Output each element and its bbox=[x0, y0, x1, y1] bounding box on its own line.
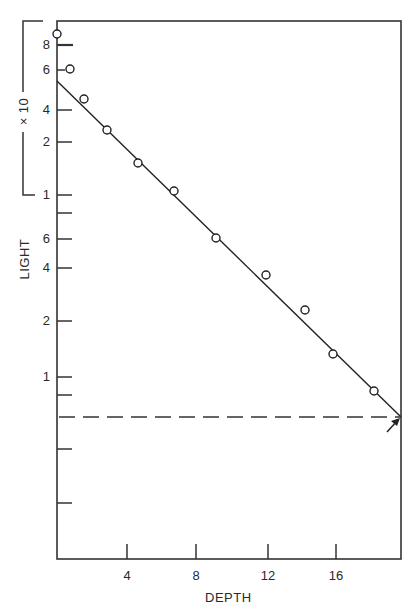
y-tick-label: 2 bbox=[30, 313, 50, 328]
data-point bbox=[212, 234, 220, 242]
arrow-icon bbox=[387, 418, 400, 432]
data-point bbox=[134, 159, 142, 167]
data-point bbox=[66, 65, 74, 73]
data-point bbox=[170, 187, 178, 195]
x-axis-title: DEPTH bbox=[205, 590, 252, 605]
x-tick-label: 4 bbox=[112, 568, 142, 583]
x-tick-label: 12 bbox=[253, 568, 283, 583]
data-point bbox=[262, 271, 270, 279]
y-tick-label: 6 bbox=[30, 62, 50, 77]
y-tick-label: 1 bbox=[30, 187, 50, 202]
x-tick-label: 16 bbox=[321, 568, 351, 583]
x-ticks bbox=[127, 544, 336, 559]
x-tick-label: 8 bbox=[181, 568, 211, 583]
y-tick-label: 6 bbox=[30, 231, 50, 246]
y-tick-label: 8 bbox=[30, 37, 50, 52]
y-tick-label: 4 bbox=[30, 260, 50, 275]
y-tick-label: 4 bbox=[30, 102, 50, 117]
chart-canvas bbox=[0, 0, 414, 612]
data-point bbox=[370, 387, 378, 395]
data-point bbox=[103, 126, 111, 134]
y-ticks bbox=[57, 45, 73, 503]
y-tick-label: 2 bbox=[30, 134, 50, 149]
y-tick-label: 1 bbox=[30, 369, 50, 384]
data-point bbox=[329, 350, 337, 358]
data-point bbox=[301, 306, 309, 314]
multiplier-label: × 10 bbox=[16, 92, 31, 132]
plot-frame bbox=[57, 21, 401, 559]
data-points bbox=[53, 30, 378, 395]
data-point bbox=[53, 30, 61, 38]
data-point bbox=[80, 95, 88, 103]
y-axis-title: LIGHT bbox=[17, 240, 32, 280]
